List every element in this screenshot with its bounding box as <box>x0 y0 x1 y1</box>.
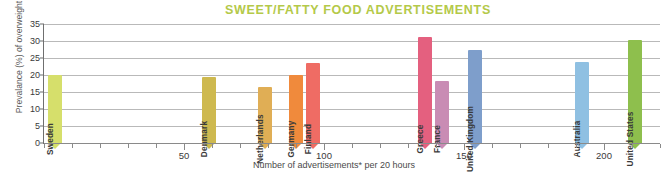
x-tick-mark-minor <box>72 144 73 148</box>
x-tick-mark-minor <box>240 144 241 148</box>
x-tick-mark-minor <box>44 144 45 148</box>
bar-label: Australia <box>573 121 582 158</box>
y-tick-label: 20 <box>0 70 40 80</box>
y-tick-label: 30 <box>0 36 40 46</box>
x-tick-mark-minor <box>632 144 633 148</box>
gridline <box>44 109 660 110</box>
x-tick-mark-minor <box>520 144 521 148</box>
bar-label: Denmark <box>200 121 209 157</box>
bar: United Kingdom <box>468 50 482 143</box>
x-tick-mark-minor <box>548 144 549 148</box>
x-tick-mark-minor <box>296 144 297 148</box>
y-tick-label: 25 <box>0 53 40 63</box>
x-tick-mark-minor <box>380 144 381 148</box>
bar-label: Germany <box>287 121 296 158</box>
chart-title: SWEET/FATTY FOOD ADVERTISEMENTS <box>0 3 668 17</box>
plot-area: SwedenDenmarkNetherlandsGermanyFinlandGr… <box>44 24 660 143</box>
x-tick-mark-minor <box>156 144 157 148</box>
x-tick-mark-minor <box>268 144 269 148</box>
y-axis-ticks: 05101520253035 <box>0 24 40 143</box>
y-tick-label: 10 <box>0 104 40 114</box>
bar-label: France <box>433 125 442 153</box>
bar: France <box>435 81 449 143</box>
x-tick-mark-minor <box>212 144 213 148</box>
x-tick-mark-minor <box>436 144 437 148</box>
bar-label: Finland <box>304 124 313 155</box>
x-tick-mark-minor <box>660 144 661 148</box>
bar: Sweden <box>48 75 62 143</box>
x-tick-mark-minor <box>128 144 129 148</box>
y-tick-label: 15 <box>0 87 40 97</box>
x-tick-mark-minor <box>352 144 353 148</box>
y-tick-label: 35 <box>0 19 40 29</box>
x-axis-label: Number of advertisements* per 20 hours <box>0 160 668 170</box>
x-tick-mark-minor <box>492 144 493 148</box>
y-tick-label: 5 <box>0 121 40 131</box>
bar-label: Sweden <box>46 123 55 155</box>
chart-container: SWEET/FATTY FOOD ADVERTISEMENTS Prevalan… <box>0 0 668 173</box>
bar: Netherlands <box>258 87 272 143</box>
bar: Germany <box>289 75 303 143</box>
bar-label: United States <box>626 112 635 167</box>
bar: Greece <box>418 37 432 143</box>
x-tick-mark-minor <box>576 144 577 148</box>
x-tick-mark-minor <box>100 144 101 148</box>
bar-label: Netherlands <box>256 114 265 164</box>
bar: Denmark <box>202 77 216 143</box>
bar: United States <box>628 40 642 143</box>
gridline <box>44 58 660 59</box>
y-tick-label: 0 <box>0 138 40 148</box>
gridline <box>44 75 660 76</box>
bar: Australia <box>575 62 589 143</box>
gridline <box>44 92 660 93</box>
bar-label: Greece <box>416 125 425 154</box>
gridline <box>44 126 660 127</box>
bar: Finland <box>306 63 320 143</box>
gridline <box>44 24 660 25</box>
gridline <box>44 41 660 42</box>
x-tick-mark-minor <box>408 144 409 148</box>
